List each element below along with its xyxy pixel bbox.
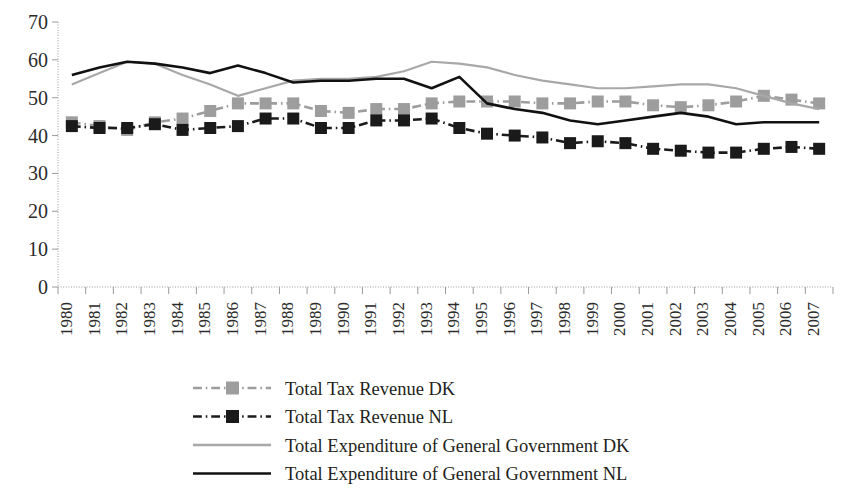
data-point-marker [453, 122, 465, 134]
y-tick-label: 10 [28, 238, 48, 260]
data-point-marker [343, 122, 355, 134]
x-tick-label: 1980 [57, 302, 76, 336]
chart-legend: Total Tax Revenue DKTotal Tax Revenue NL… [193, 379, 630, 485]
data-point-marker [481, 96, 493, 108]
legend-item-1[interactable]: Total Tax Revenue DK [193, 379, 456, 399]
x-tick-label: 1992 [389, 302, 408, 336]
y-tick-label: 40 [28, 125, 48, 147]
data-point-marker [481, 128, 493, 140]
legend-label: Total Tax Revenue NL [285, 407, 453, 427]
data-point-marker [785, 141, 797, 153]
data-point-marker [232, 120, 244, 132]
legend-item-4[interactable]: Total Expenditure of General Government … [193, 464, 627, 484]
data-point-marker [509, 130, 521, 142]
x-tick-label: 2001 [638, 302, 657, 336]
data-point-marker [730, 147, 742, 159]
x-tick-label: 1981 [85, 302, 104, 336]
data-point-marker [536, 97, 548, 109]
x-tick-label: 2006 [776, 302, 795, 336]
data-point-marker [398, 114, 410, 126]
data-point-marker [66, 120, 78, 132]
x-tick-label: 1982 [112, 302, 131, 336]
x-tick-label: 1987 [251, 302, 270, 337]
data-point-marker [177, 124, 189, 136]
data-point-marker [675, 145, 687, 157]
x-tick-label: 2004 [721, 302, 740, 337]
legend-marker-swatch [226, 382, 239, 395]
x-tick-label: 2005 [749, 302, 768, 336]
x-tick-label: 1988 [278, 302, 297, 336]
legend-label: Total Expenditure of General Government … [285, 436, 630, 456]
data-point-marker [204, 105, 216, 117]
data-point-marker [177, 113, 189, 125]
data-point-marker [564, 137, 576, 149]
y-tick-label: 0 [38, 276, 48, 298]
y-tick-label: 70 [28, 11, 48, 33]
line-chart: 010203040506070 198019811982198319841985… [0, 0, 851, 492]
data-point-marker [730, 96, 742, 108]
data-point-marker [287, 113, 299, 125]
data-point-marker [702, 99, 714, 111]
y-axis-tick-marks [52, 22, 58, 287]
data-point-marker [149, 118, 161, 130]
legend-label: Total Expenditure of General Government … [285, 464, 627, 484]
x-tick-label: 1989 [306, 302, 325, 336]
data-point-marker [370, 114, 382, 126]
x-tick-label: 1995 [472, 302, 491, 336]
x-tick-label: 1998 [555, 302, 574, 336]
data-series-layer [66, 62, 825, 159]
data-point-marker [398, 103, 410, 115]
y-tick-label: 50 [28, 87, 48, 109]
x-tick-label: 1984 [168, 302, 187, 337]
data-point-marker [94, 122, 106, 134]
data-point-marker [619, 137, 631, 149]
data-point-marker [260, 113, 272, 125]
data-point-marker [675, 101, 687, 113]
x-tick-label: 2003 [693, 302, 712, 336]
data-point-marker [509, 96, 521, 108]
data-point-marker [592, 135, 604, 147]
x-tick-label: 2000 [610, 302, 629, 336]
legend-item-2[interactable]: Total Tax Revenue NL [193, 407, 453, 427]
data-point-marker [426, 113, 438, 125]
data-point-marker [204, 122, 216, 134]
data-point-marker [287, 97, 299, 109]
x-tick-label: 1985 [195, 302, 214, 336]
x-tick-label: 1991 [361, 302, 380, 336]
legend-label: Total Tax Revenue DK [285, 379, 456, 399]
data-point-marker [453, 96, 465, 108]
data-point-marker [619, 96, 631, 108]
data-point-marker [702, 147, 714, 159]
x-tick-label: 2002 [666, 302, 685, 336]
data-point-marker [813, 143, 825, 155]
y-tick-label: 30 [28, 162, 48, 184]
data-point-marker [232, 97, 244, 109]
x-tick-label: 2007 [804, 302, 823, 337]
data-point-marker [647, 143, 659, 155]
x-tick-label: 1993 [417, 302, 436, 336]
x-tick-label: 1999 [583, 302, 602, 336]
x-axis-tick-labels: 1980198119821983198419851986198719881989… [57, 302, 823, 337]
data-point-marker [260, 97, 272, 109]
legend-item-3[interactable]: Total Expenditure of General Government … [193, 436, 630, 456]
x-tick-label: 1997 [527, 302, 546, 337]
y-axis-tick-labels: 010203040506070 [28, 11, 48, 298]
data-point-marker [592, 96, 604, 108]
legend-marker-swatch [226, 410, 239, 423]
data-point-marker [315, 105, 327, 117]
data-point-marker [426, 97, 438, 109]
data-point-marker [315, 122, 327, 134]
data-point-marker [121, 122, 133, 134]
x-tick-label: 1983 [140, 302, 159, 336]
y-tick-label: 20 [28, 200, 48, 222]
chart-figure: 010203040506070 198019811982198319841985… [0, 0, 851, 492]
data-point-marker [647, 99, 659, 111]
data-point-marker [758, 143, 770, 155]
y-tick-label: 60 [28, 49, 48, 71]
data-point-marker [343, 107, 355, 119]
data-point-marker [370, 103, 382, 115]
x-tick-label: 1994 [444, 302, 463, 337]
x-tick-label: 1996 [500, 302, 519, 336]
x-axis-tick-marks [58, 287, 833, 294]
data-point-marker [536, 131, 548, 143]
